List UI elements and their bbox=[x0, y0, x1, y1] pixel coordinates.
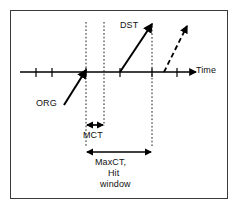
figure-container: Time DST ORG MCT MaxCT, Hit window bbox=[0, 0, 241, 209]
org-event-arrow bbox=[64, 70, 86, 105]
mct-label: MCT bbox=[83, 130, 103, 141]
dst-event-arrow bbox=[120, 24, 152, 72]
maxct-label-line2: Hit bbox=[108, 168, 119, 179]
time-axis-label: Time bbox=[196, 65, 216, 76]
org-label: ORG bbox=[36, 98, 57, 109]
maxct-label-line3: window bbox=[100, 179, 131, 190]
late-event-arrow-dashed bbox=[164, 26, 187, 72]
dst-label: DST bbox=[120, 20, 138, 31]
maxct-label-line1: MaxCT, bbox=[95, 157, 126, 168]
